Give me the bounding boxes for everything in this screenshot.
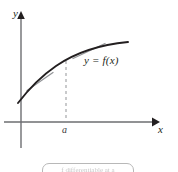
point-a-label: a [62,125,67,135]
plot-canvas [0,0,178,172]
differentiability-figure: y x a y = f(x) f differentiable at a [0,0,178,172]
caption-text: f differentiable at a [43,166,133,172]
caption-box: f differentiable at a [42,163,134,172]
y-axis-arrowhead [17,11,25,19]
curve-equation-label: y = f(x) [84,54,119,66]
x-axis-label: x [158,124,163,135]
function-curve [18,42,128,103]
y-axis-label: y [13,8,18,19]
